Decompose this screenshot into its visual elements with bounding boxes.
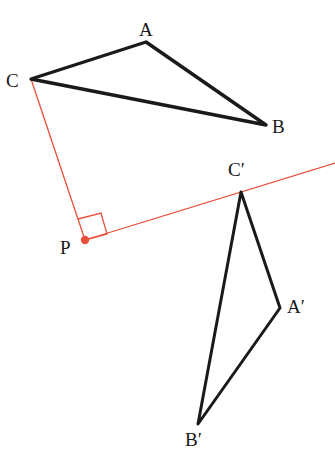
vertex-label-c: C — [6, 71, 19, 90]
vertex-label-b: B — [272, 117, 285, 136]
geometry-diagram-canvas: A B C P A′ B′ C′ — [0, 0, 335, 456]
right-angle-marker-at-p — [78, 213, 107, 240]
vertex-label-a: A — [139, 20, 153, 39]
vertex-label-a-prime: A′ — [287, 297, 305, 316]
vertex-label-p: P — [60, 238, 71, 257]
vertex-label-c-prime: C′ — [228, 160, 245, 179]
triangle-a-prime-b-prime-c-prime — [198, 192, 280, 424]
point-marker-p — [81, 236, 89, 244]
mirror-line — [85, 163, 335, 240]
triangle-abc — [31, 42, 266, 125]
segment-c-to-p — [31, 79, 85, 240]
vertex-label-b-prime: B′ — [185, 430, 202, 449]
geometry-svg — [0, 0, 335, 456]
